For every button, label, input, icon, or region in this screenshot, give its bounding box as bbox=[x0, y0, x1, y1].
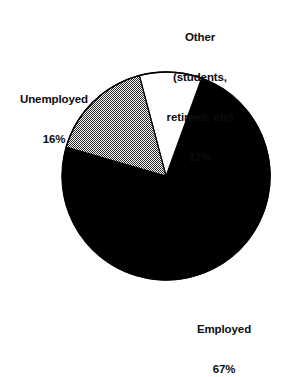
pie-label-employed: Employed 67% bbox=[172, 296, 276, 377]
pie-label-other-percent: 17% bbox=[148, 151, 252, 164]
pie-label-employed-line1: Employed bbox=[172, 323, 276, 336]
pie-label-unemployed-line1: Unemployed bbox=[2, 93, 106, 106]
pie-label-other-line3: retirees, etc) bbox=[148, 111, 252, 124]
pie-label-unemployed: Unemployed 16% bbox=[2, 66, 106, 173]
pie-label-other: Other (students, retirees, etc) 17% bbox=[148, 4, 252, 192]
pie-label-other-line2: (students, bbox=[148, 71, 252, 84]
pie-label-other-line1: Other bbox=[148, 31, 252, 44]
pie-label-unemployed-percent: 16% bbox=[2, 133, 106, 146]
pie-label-employed-percent: 67% bbox=[172, 363, 276, 376]
